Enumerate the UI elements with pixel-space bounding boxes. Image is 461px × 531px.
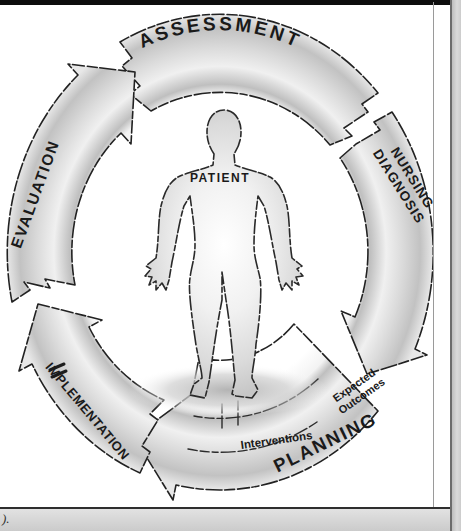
scanned-figure-page: ASSESSMENT NURSING DIAGNOSIS PLANNING Ex… bbox=[0, 0, 461, 531]
evaluation-arrow bbox=[7, 64, 135, 302]
page-bottom-margin bbox=[0, 509, 452, 531]
figure-top-border bbox=[0, 0, 461, 5]
patient-label: PATIENT bbox=[190, 171, 250, 185]
page-edge-shading bbox=[452, 0, 461, 531]
patient-shadow bbox=[128, 364, 328, 416]
caption-text-fragment: ). bbox=[2, 511, 10, 527]
figure-right-inner-border bbox=[433, 2, 434, 508]
nursing-process-cycle-diagram: ASSESSMENT NURSING DIAGNOSIS PLANNING Ex… bbox=[0, 0, 452, 508]
